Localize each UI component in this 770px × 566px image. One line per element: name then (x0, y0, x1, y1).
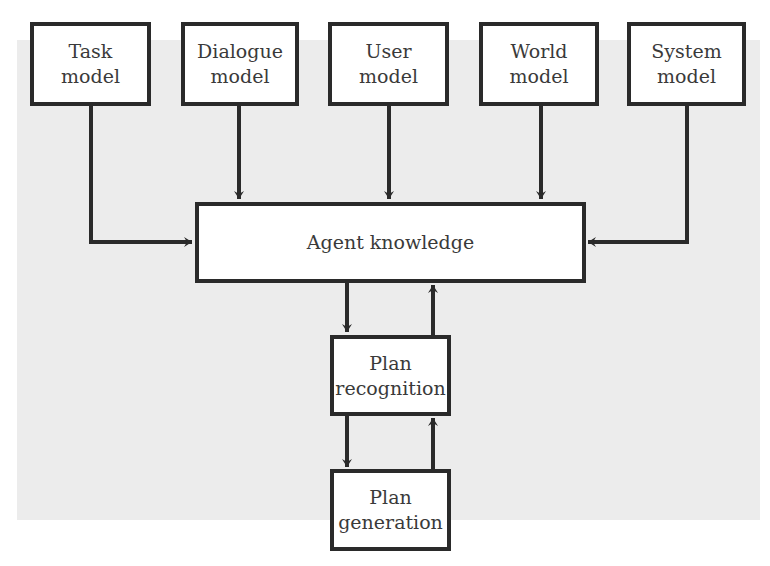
dialogue-model-node: Dialoguemodel (181, 22, 299, 106)
task-model-node: Taskmodel (30, 22, 151, 106)
task-model-line1: Task (61, 39, 120, 64)
system-model-line1: System (651, 39, 721, 64)
plan-generation-node: Plangeneration (330, 469, 451, 551)
user-model-line2: model (359, 64, 418, 89)
plan-generation-line1: Plan (338, 485, 443, 510)
dialogue-model-line1: Dialogue (197, 39, 283, 64)
edge-task-to-agent (91, 105, 192, 242)
plan-recognition-line1: Plan (335, 351, 445, 376)
agent-knowledge-label: Agent knowledge (307, 230, 474, 255)
dialogue-model-line2: model (197, 64, 283, 89)
world-model-node: Worldmodel (479, 22, 599, 106)
task-model-line2: model (61, 64, 120, 89)
agent-knowledge-node: Agent knowledge (195, 202, 586, 283)
user-model-node: Usermodel (328, 22, 449, 106)
system-model-line2: model (651, 64, 721, 89)
world-model-line1: World (510, 39, 569, 64)
edge-system-to-agent (588, 105, 687, 242)
plan-generation-line2: generation (338, 510, 443, 535)
system-model-node: Systemmodel (627, 22, 746, 106)
world-model-line2: model (510, 64, 569, 89)
user-model-line1: User (359, 39, 418, 64)
plan-recognition-node: Planrecognition (330, 335, 451, 416)
plan-recognition-line2: recognition (335, 376, 445, 401)
